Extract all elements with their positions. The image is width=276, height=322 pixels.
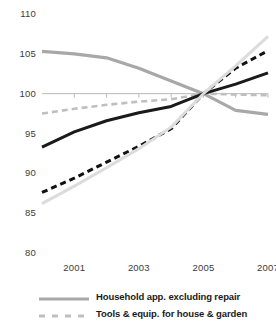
y-tick-label-100: 100: [8, 88, 36, 99]
x-tick-label-2007: 2007: [251, 262, 276, 273]
series-line-4: [42, 36, 268, 203]
y-tick-label-80: 80: [8, 247, 36, 258]
legend-swatch-icon: [38, 308, 90, 320]
line-chart: 80859095100105110 2001200320052007 House…: [0, 0, 276, 322]
series-line-0: [42, 51, 268, 114]
plot-area: [0, 0, 276, 322]
x-tick-label-2001: 2001: [57, 262, 91, 273]
legend-label: Tools & equip. for house & garden: [96, 308, 247, 319]
chart-legend: Household app. excluding repairTools & e…: [0, 288, 276, 322]
y-tick-label-105: 105: [8, 48, 36, 59]
y-tick-label-110: 110: [8, 8, 36, 19]
legend-label: Household app. excluding repair: [96, 291, 240, 302]
series-line-3: [42, 51, 268, 193]
legend-item-0[interactable]: Household app. excluding repair: [0, 288, 276, 305]
x-tick-label-2003: 2003: [122, 262, 156, 273]
legend-swatch-icon: [38, 291, 90, 303]
x-tick-label-2005: 2005: [186, 262, 220, 273]
y-tick-label-90: 90: [8, 167, 36, 178]
legend-item-1[interactable]: Tools & equip. for house & garden: [0, 305, 276, 322]
y-tick-label-85: 85: [8, 207, 36, 218]
y-tick-label-95: 95: [8, 128, 36, 139]
